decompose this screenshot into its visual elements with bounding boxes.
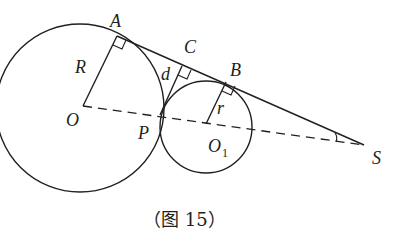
angle-mark-S	[335, 133, 337, 142]
figure-caption: （图 15）	[143, 209, 226, 230]
label-d: d	[161, 64, 171, 84]
label-R: R	[74, 57, 86, 77]
label-r: r	[217, 98, 225, 118]
label-P: P	[137, 123, 149, 143]
label-O1-subscript: 1	[222, 146, 228, 160]
label-O: O	[66, 110, 79, 130]
label-B: B	[230, 60, 241, 80]
radius-R	[83, 36, 117, 106]
circle-O	[0, 24, 164, 192]
label-O1: O	[208, 136, 221, 156]
diagram-canvas: A C B R d r O P O 1 S （图 15）	[0, 0, 394, 236]
geometry-figure: A C B R d r O P O 1 S （图 15）	[0, 0, 394, 236]
tangent-line-AS	[117, 36, 364, 145]
label-A: A	[109, 11, 122, 31]
label-C: C	[184, 37, 197, 57]
label-S: S	[372, 148, 381, 168]
